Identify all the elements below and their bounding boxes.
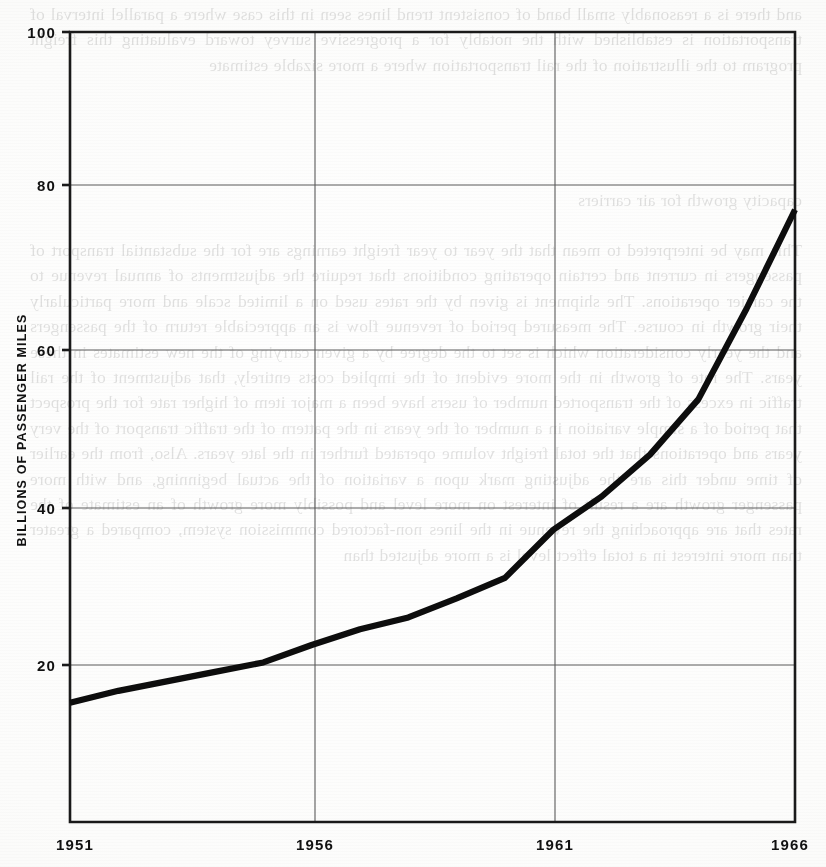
x-tick-label-1956: 1956	[296, 836, 334, 853]
data-series-group	[70, 210, 795, 703]
y-axis-title: BILLIONS OF PASSENGER MILES	[15, 314, 29, 547]
data-line-passenger-miles	[70, 210, 795, 703]
x-axis-tick-labels: 1951 1956 1961 1966	[56, 836, 809, 853]
y-axis-tick-labels: 100 80 60 40 20	[27, 24, 56, 674]
y-tick-label-80: 80	[37, 177, 56, 194]
chart-canvas: 100 80 60 40 20 1951 1956 1961 1966 BILL…	[0, 0, 826, 867]
y-tick-label-40: 40	[37, 500, 56, 517]
line-chart: 100 80 60 40 20 1951 1956 1961 1966 BILL…	[0, 0, 826, 867]
x-tick-label-1966: 1966	[771, 836, 809, 853]
y-tick-label-60: 60	[37, 342, 56, 359]
y-tick-label-100: 100	[27, 24, 56, 41]
plot-frame	[70, 32, 795, 822]
x-tick-label-1951: 1951	[56, 836, 94, 853]
y-tick-label-20: 20	[37, 657, 56, 674]
x-gridlines	[315, 32, 555, 822]
x-tick-label-1961: 1961	[536, 836, 574, 853]
plot-frame-path	[70, 32, 795, 822]
y-gridlines	[70, 185, 795, 665]
